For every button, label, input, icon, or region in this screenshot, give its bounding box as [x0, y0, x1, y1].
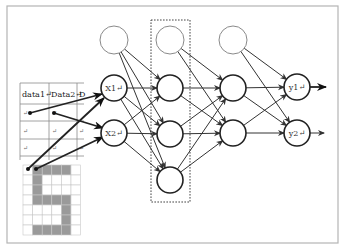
- pixel-cell: [23, 175, 33, 185]
- table-header-d: D: [79, 90, 85, 99]
- pixel-cell: [61, 205, 71, 215]
- table-cell: ↵: [79, 127, 84, 134]
- pixel-cell: [52, 225, 62, 235]
- pixel-cell: [42, 215, 52, 225]
- source-dot: [26, 167, 30, 171]
- pixel-cell: [33, 215, 43, 225]
- source-dot: [34, 167, 38, 171]
- pixel-cell: [61, 215, 71, 225]
- hidden2-node-2-circle: [220, 120, 246, 146]
- pixel-cell: [71, 205, 81, 215]
- bias-node-2-circle: [156, 26, 184, 54]
- hidden1-node-2-circle: [157, 121, 183, 147]
- bias-node-1: [100, 26, 128, 54]
- connection-edge: [127, 133, 157, 134]
- pixel-cell: [71, 185, 81, 195]
- pixel-cell: [71, 165, 81, 175]
- pixel-cell: [23, 185, 33, 195]
- bias-node-1-circle: [100, 26, 128, 54]
- pixel-cell: [33, 225, 43, 235]
- pixel-cell: [52, 175, 62, 185]
- output-node-2: y2↵: [284, 120, 310, 146]
- pixel-cell: [33, 185, 43, 195]
- pixel-cell: [71, 225, 81, 235]
- hidden1-node-3: [157, 167, 183, 193]
- output-node-1-label: y1↵: [288, 83, 305, 92]
- pixel-cell: [42, 175, 52, 185]
- table-cell: ↵: [23, 144, 28, 151]
- pixel-cell: [42, 185, 52, 195]
- bias-node-3-circle: [219, 26, 247, 54]
- hidden1-node-3-circle: [157, 167, 183, 193]
- pixel-cell: [71, 195, 81, 205]
- pixel-cell: [33, 205, 43, 215]
- pixel-cell: [71, 215, 81, 225]
- pixel-cell: [42, 205, 52, 215]
- pixel-cell: [23, 205, 33, 215]
- pixel-cell: [52, 195, 62, 205]
- output-node-1: y1↵: [284, 74, 310, 100]
- pixel-grid-digit: [23, 165, 81, 235]
- output-node-2-label: y2↵: [288, 129, 305, 138]
- pixel-cell: [33, 195, 43, 205]
- table-header-data2: Data2↵: [51, 90, 82, 99]
- input-node-2: X2↵: [101, 120, 127, 146]
- hidden1-node-2: [157, 121, 183, 147]
- pixel-cell: [42, 165, 52, 175]
- pixel-cell: [61, 185, 71, 195]
- input-node-2-label: X2↵: [105, 129, 123, 138]
- pixel-cell: [52, 205, 62, 215]
- pixel-cell: [52, 185, 62, 195]
- pixel-cell: [52, 165, 62, 175]
- pixel-cell: [61, 225, 71, 235]
- pixel-cell: [23, 215, 33, 225]
- source-dot: [28, 111, 32, 115]
- hidden2-node-1-circle: [220, 75, 246, 101]
- pixel-cell: [61, 165, 71, 175]
- pixel-cell: [71, 175, 81, 185]
- hidden2-node-2: [220, 120, 246, 146]
- input-node-1-label: X1↵: [105, 84, 123, 93]
- pixel-cell: [42, 195, 52, 205]
- pixel-cell: [23, 195, 33, 205]
- bias-node-2: [156, 26, 184, 54]
- table-cell: ↵: [52, 127, 57, 134]
- network-diagram: data1↵ Data2↵ D ↵ ↵ ↵ ↵ ↵ ↵ ↵ ↵ X1↵X2↵y1…: [0, 0, 341, 250]
- table-header-data1: data1↵: [22, 90, 52, 99]
- hidden1-node-1: [157, 75, 183, 101]
- table-cell: ↵: [23, 127, 28, 134]
- pixel-cell: [61, 175, 71, 185]
- hidden1-node-1-circle: [157, 75, 183, 101]
- hidden2-node-1: [220, 75, 246, 101]
- pixel-cell: [61, 195, 71, 205]
- bias-node-3: [219, 26, 247, 54]
- table-cell: ↵: [23, 109, 28, 116]
- pixel-cell: [52, 215, 62, 225]
- pixel-cell: [23, 225, 33, 235]
- input-node-1: X1↵: [101, 75, 127, 101]
- pixel-cell: [33, 175, 43, 185]
- pixel-cell: [42, 225, 52, 235]
- source-dot: [52, 111, 56, 115]
